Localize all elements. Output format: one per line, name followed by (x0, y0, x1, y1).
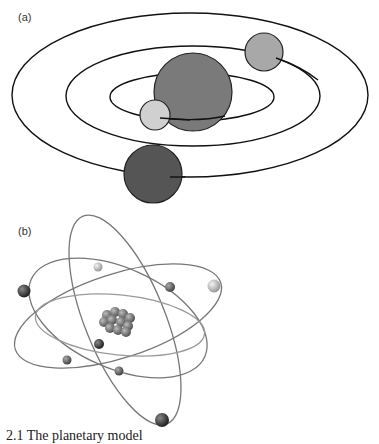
electron (94, 339, 104, 349)
electron (115, 367, 124, 376)
figure-caption: 2.1 The planetary model (6, 428, 143, 444)
electron (63, 356, 72, 365)
electron (165, 282, 175, 292)
electron (94, 263, 103, 272)
nucleus (99, 307, 135, 337)
electron (208, 280, 221, 293)
electron (18, 285, 31, 298)
electron (155, 413, 169, 427)
